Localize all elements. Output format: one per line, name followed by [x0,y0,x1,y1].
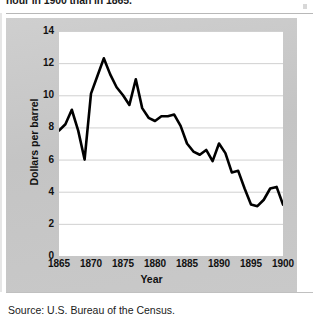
y-axis-tick-label: 14 [28,26,54,36]
x-axis-tick-label: 1900 [263,259,303,269]
gridlines [59,32,283,257]
plot-area [59,31,283,256]
chart-panel: 02468101214 Dollars per barrel 186518701… [6,18,297,292]
y-axis-title: Dollars per barrel [28,67,40,217]
data-line-series [59,58,283,206]
chart-line-plot [59,31,283,256]
y-axis-tick-label: 2 [28,219,54,229]
x-axis-title: Year [6,273,297,285]
source-note: Source: U.S. Bureau of the Census. [8,304,175,316]
top-divider [6,13,313,14]
page-corner-mark [303,4,307,9]
source-divider [6,292,313,293]
page-left-edge [0,13,2,323]
figure-page: hour in 1900 than in 1865. 02468101214 D… [0,0,319,323]
source-section: Source: U.S. Bureau of the Census. [0,292,319,323]
clipped-body-text: hour in 1900 than in 1865. [6,0,236,8]
